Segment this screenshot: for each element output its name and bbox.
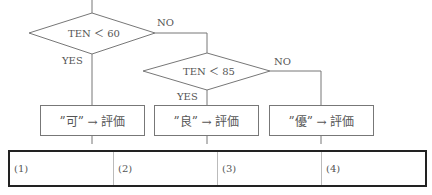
d1-no-connector — [155, 33, 207, 53]
decision-1-yes-label: YES — [62, 56, 83, 66]
decision-1-condition: TEN ＜ 60 — [68, 29, 120, 39]
answer-table: (1) (2) (3) (4) — [8, 150, 427, 187]
answer-cell-1[interactable]: (1) — [10, 152, 113, 185]
answer-cell-4-label: (4) — [326, 163, 340, 174]
d2-no-connector — [270, 71, 321, 105]
decision-2-no-label: NO — [274, 57, 291, 67]
decision-2-yes-label: YES — [177, 92, 198, 102]
answer-cell-4[interactable]: (4) — [321, 152, 425, 185]
answer-cell-1-label: (1) — [14, 163, 28, 174]
answer-cell-2[interactable]: (2) — [113, 152, 217, 185]
answer-cell-3-label: (3) — [222, 163, 236, 174]
answer-cell-2-label: (2) — [118, 163, 132, 174]
process-box-ryo: ”良” → 評価 — [154, 105, 259, 136]
process-box-ka: ”可” → 評価 — [40, 105, 145, 136]
process-box-yu: ”優” → 評価 — [269, 105, 374, 136]
decision-1-no-label: NO — [157, 18, 174, 28]
decision-2-condition: TEN ＜ 85 — [183, 67, 235, 77]
answer-cell-3[interactable]: (3) — [217, 152, 321, 185]
process-box-yu-text: ”優” → 評価 — [289, 112, 355, 129]
process-box-ryo-text: ”良” → 評価 — [174, 112, 240, 129]
process-box-ka-text: ”可” → 評価 — [60, 112, 126, 129]
